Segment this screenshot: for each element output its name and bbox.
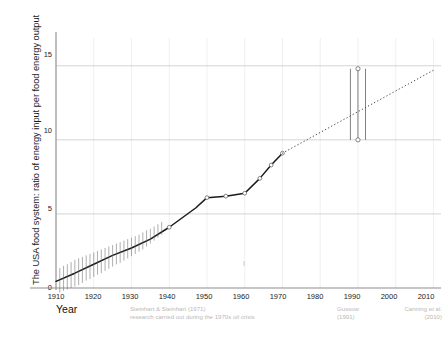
data-marker-1940	[167, 225, 171, 229]
data-marker-1955	[224, 194, 228, 198]
series-annual-yearly-variation-whiskers-	[60, 222, 162, 292]
data-marker-1960	[243, 191, 247, 195]
data-marker-1964	[258, 176, 262, 180]
data-marker-1967	[269, 163, 273, 167]
gussow-marker	[356, 67, 360, 71]
chart-container: The USA food system: ratio of energy inp…	[0, 0, 448, 349]
plot-area	[0, 0, 448, 349]
gussow-marker	[356, 138, 360, 142]
data-marker-1950	[205, 196, 209, 200]
gussow-errorbar-group	[350, 67, 365, 142]
